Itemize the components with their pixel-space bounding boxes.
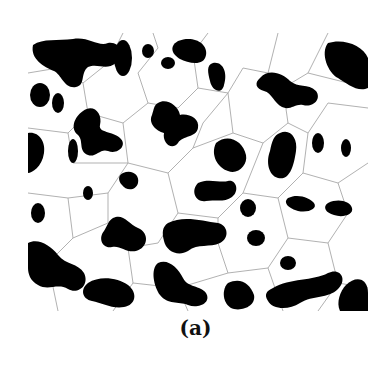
domain-pattern bbox=[28, 33, 368, 311]
micrograph-figure bbox=[28, 33, 368, 311]
figure-caption: (a) bbox=[0, 316, 391, 340]
black-domains bbox=[28, 38, 368, 311]
